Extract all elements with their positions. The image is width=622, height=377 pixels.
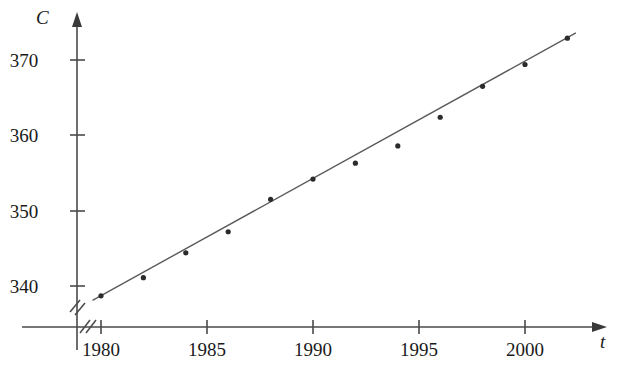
co2-scatter-chart: C t 370 360 350 340 1980 (0, 0, 622, 377)
chart-canvas: C t 370 360 350 340 1980 (0, 0, 622, 377)
y-tick-label-340: 340 (10, 276, 39, 297)
y-axis-label: C (36, 7, 49, 28)
data-point (98, 293, 103, 298)
x-tick-label-1995: 1995 (400, 339, 438, 360)
arrow-up-icon (72, 12, 82, 27)
data-point (438, 115, 443, 120)
x-tick-label-2000: 2000 (506, 339, 544, 360)
x-axis-label: t (600, 331, 606, 352)
data-point (268, 197, 273, 202)
y-tick-label-360: 360 (10, 125, 39, 146)
y-axis-ticks: 370 360 350 340 (10, 50, 85, 297)
x-axis-ticks: 1980 1985 1990 1995 2000 (82, 320, 544, 360)
x-tick-label-1980: 1980 (82, 339, 120, 360)
x-tick-label-1985: 1985 (188, 339, 226, 360)
data-point (226, 229, 231, 234)
data-point (522, 62, 527, 67)
data-point (183, 250, 188, 255)
x-tick-label-1990: 1990 (294, 339, 332, 360)
data-point (141, 275, 146, 280)
data-point (480, 84, 485, 89)
data-point (565, 36, 570, 41)
data-point (395, 143, 400, 148)
trend-line (93, 33, 576, 300)
y-tick-label-370: 370 (10, 50, 39, 71)
y-tick-label-350: 350 (10, 201, 39, 222)
data-point (310, 176, 315, 181)
data-point (353, 161, 358, 166)
